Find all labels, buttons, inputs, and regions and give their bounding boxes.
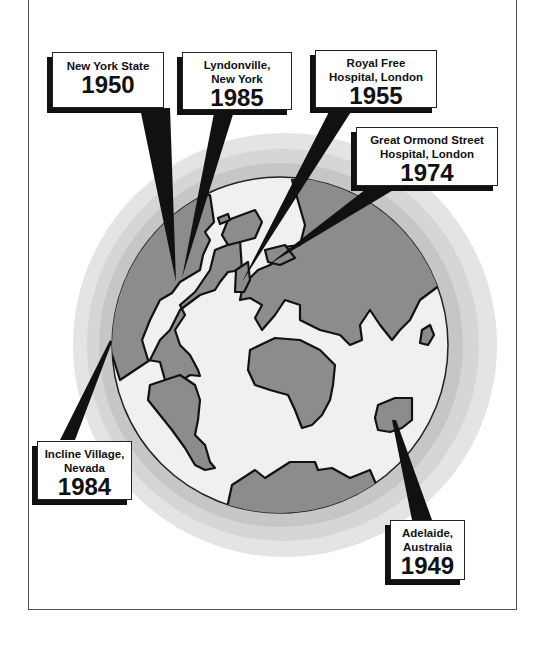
callout-adelaide: Adelaide, Australia 1949	[390, 520, 465, 580]
callout-place: Lyndonville,	[183, 58, 291, 72]
callout-year: 1974	[357, 161, 497, 185]
callout-year: 1955	[316, 84, 436, 108]
callout-place: Adelaide,	[391, 526, 464, 540]
callout-new-york-state: New York State 1950	[52, 52, 164, 108]
callout-place: Royal Free	[316, 56, 436, 70]
callout-incline-village: Incline Village, Nevada 1984	[37, 441, 132, 500]
callout-lyndonville: Lyndonville, New York 1985	[182, 52, 292, 110]
callout-year: 1950	[53, 73, 163, 97]
callout-great-ormond-street: Great Ormond Street Hospital, London 197…	[356, 127, 498, 186]
callout-place: Great Ormond Street	[357, 133, 497, 147]
callout-year: 1985	[183, 86, 291, 110]
callout-royal-free: Royal Free Hospital, London 1955	[315, 50, 437, 108]
callout-year: 1984	[38, 475, 131, 499]
callout-year: 1949	[391, 554, 464, 578]
callout-place: Incline Village,	[38, 447, 131, 461]
